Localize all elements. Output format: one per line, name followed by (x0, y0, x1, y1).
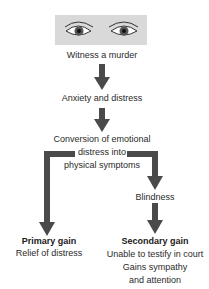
node-conversion-line-2: distress into (41, 147, 163, 158)
node-conversion-line-1: Conversion of emotional (41, 134, 163, 145)
secondary-gain-line-1: Unable to testify in court (105, 249, 205, 260)
node-anxiety: Anxiety and distress (51, 93, 153, 104)
node-conversion-line-3: physical symptoms (41, 160, 163, 171)
primary-gain-line-1: Relief of distress (7, 248, 91, 259)
secondary-gain-line-3: and attention (105, 275, 205, 286)
secondary-gain-title: Secondary gain (105, 236, 205, 247)
node-blindness: Blindness (125, 192, 185, 203)
arrow-anxiety-to-conversion (94, 108, 110, 132)
arrow-blindness-to-secondary-gain (147, 203, 163, 234)
arrow-witness-to-anxiety (94, 64, 110, 90)
primary-gain-title: Primary gain (7, 236, 91, 247)
node-witness: Witness a murder (51, 50, 153, 61)
secondary-gain-line-2: Gains sympathy (105, 262, 205, 273)
